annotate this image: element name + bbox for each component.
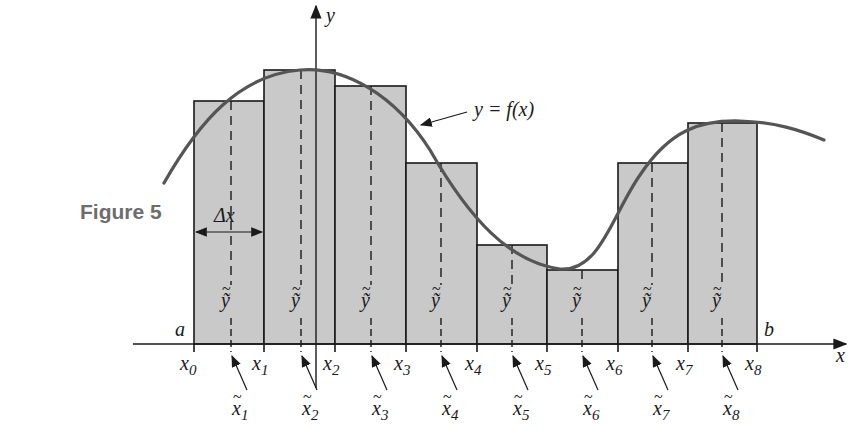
delta-x-label: Δx: [213, 204, 235, 226]
sample-y-label-2-tilde: ~: [292, 280, 301, 297]
partition-label-3: x3: [393, 352, 410, 378]
sample-x-label-3-tilde: ~: [373, 388, 382, 405]
partition-label-5: x5: [534, 352, 552, 378]
partition-label-0: x0: [179, 352, 197, 378]
sample-y-label-1-tilde: ~: [222, 280, 231, 297]
x-axis-label: x: [835, 344, 845, 366]
interval-start-label: a: [175, 318, 185, 340]
partition-label-1: x1: [251, 352, 268, 378]
sample-x-pointer-5: [513, 356, 528, 390]
sample-y-label-8-tilde: ~: [713, 280, 722, 297]
partition-label-2: x2: [322, 352, 340, 378]
partition-label-8: x8: [744, 352, 762, 378]
sample-y-label-5-tilde: ~: [503, 280, 512, 297]
sample-x-label-5-tilde: ~: [514, 388, 523, 405]
sample-y-label-3-tilde: ~: [362, 280, 371, 297]
partition-label-7: x7: [675, 352, 694, 378]
sample-y-label-7-tilde: ~: [643, 280, 652, 297]
sample-x-pointer-4: [442, 356, 457, 390]
sample-x-label-8-tilde: ~: [724, 388, 733, 405]
sample-x-pointer-1: [232, 356, 247, 390]
partition-label-4: x4: [464, 352, 482, 378]
riemann-sum-diagram: y = f(x) Δx y x a b ỹ~x1~ỹ~x2~ỹ~x3~ỹ~x4~…: [0, 0, 852, 429]
sample-x-label-2-tilde: ~: [303, 388, 312, 405]
sample-x-pointer-8: [723, 356, 738, 390]
sample-x-label-1-tilde: ~: [233, 388, 242, 405]
curve-label-arrow: [421, 112, 467, 125]
sample-x-pointer-2: [302, 356, 317, 390]
sample-y-label-4-tilde: ~: [432, 280, 441, 297]
sample-x-pointer-7: [653, 356, 668, 390]
sample-x-label-4-tilde: ~: [443, 388, 452, 405]
partition-label-6: x6: [605, 352, 623, 378]
sample-x-pointer-6: [583, 356, 598, 390]
sample-y-label-6-tilde: ~: [573, 280, 582, 297]
sample-x-label-7-tilde: ~: [654, 388, 663, 405]
curve-label: y = f(x): [472, 98, 534, 121]
interval-end-label: b: [764, 318, 774, 340]
rectangle-7: [618, 163, 688, 344]
sample-x-label-6-tilde: ~: [584, 388, 593, 405]
y-axis-label: y: [324, 4, 335, 27]
sample-x-pointer-3: [372, 356, 387, 390]
